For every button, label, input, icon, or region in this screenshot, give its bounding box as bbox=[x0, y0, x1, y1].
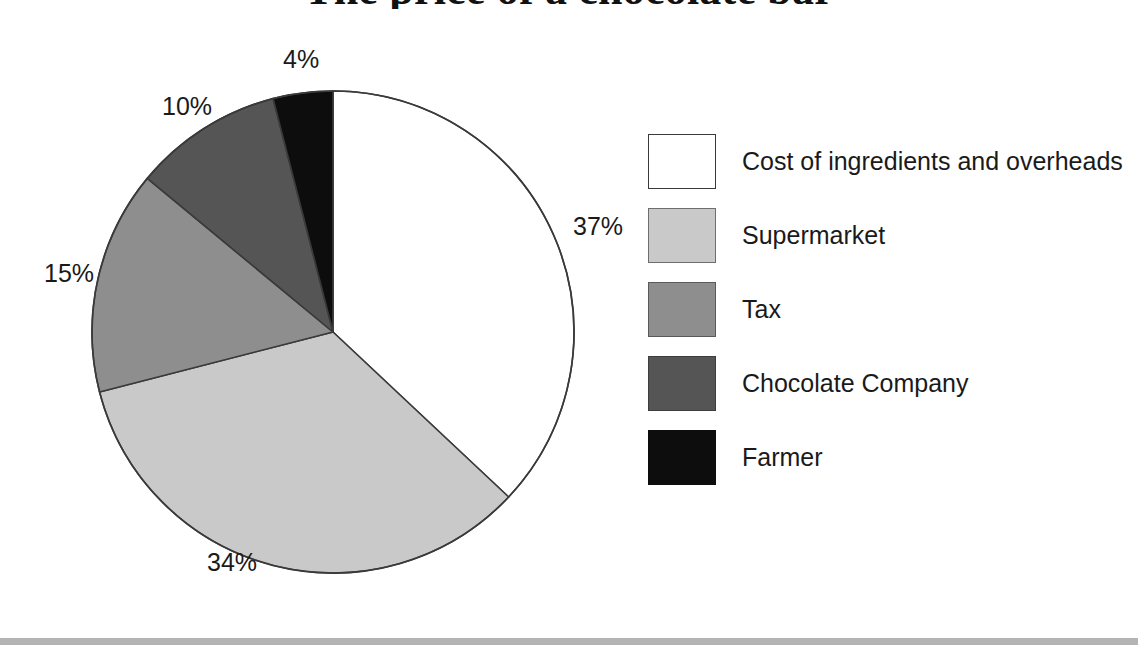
pie-label-supermarket: 34% bbox=[207, 550, 257, 575]
pie-slice-group bbox=[92, 91, 574, 573]
bottom-divider bbox=[0, 638, 1138, 645]
legend-label-chocolate-company: Chocolate Company bbox=[742, 371, 969, 396]
legend-label-supermarket: Supermarket bbox=[742, 223, 885, 248]
pie-label-chocolate-company: 10% bbox=[162, 94, 212, 119]
legend-item-cost-of-ingredients-and-overheads: Cost of ingredients and overheads bbox=[648, 133, 1108, 190]
legend-item-supermarket: Supermarket bbox=[648, 207, 1108, 264]
page-title: The price of a chocolate bar bbox=[304, 0, 834, 9]
legend-swatch-cost-of-ingredients-and-overheads bbox=[648, 134, 716, 189]
legend-label-farmer: Farmer bbox=[742, 445, 823, 470]
legend-label-cost-of-ingredients-and-overheads: Cost of ingredients and overheads bbox=[742, 149, 1123, 174]
legend-swatch-supermarket bbox=[648, 208, 716, 263]
legend-swatch-tax bbox=[648, 282, 716, 337]
pie-chart-svg bbox=[91, 90, 575, 574]
pie-chart bbox=[91, 90, 575, 574]
pie-label-tax: 15% bbox=[44, 261, 94, 286]
chart-legend: Cost of ingredients and overheads Superm… bbox=[648, 133, 1108, 486]
pie-label-farmer: 4% bbox=[283, 47, 319, 72]
legend-label-tax: Tax bbox=[742, 297, 781, 322]
legend-item-tax: Tax bbox=[648, 281, 1108, 338]
legend-item-farmer: Farmer bbox=[648, 429, 1108, 486]
pie-label-cost-of-ingredients-and-overheads: 37% bbox=[573, 214, 623, 239]
page-title-clipped: The price of a chocolate bar bbox=[0, 0, 1138, 9]
legend-swatch-chocolate-company bbox=[648, 356, 716, 411]
legend-swatch-farmer bbox=[648, 430, 716, 485]
chart-page: The price of a chocolate bar 37% 34% 15%… bbox=[0, 0, 1138, 651]
legend-item-chocolate-company: Chocolate Company bbox=[648, 355, 1108, 412]
